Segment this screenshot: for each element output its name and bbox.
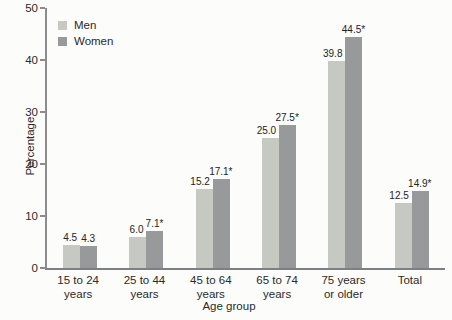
bar-group-2: 15.217.1* bbox=[196, 8, 230, 268]
women-bar-2 bbox=[213, 179, 230, 268]
bar-chart-figure: Percentage 01020304050 4.54.36.07.1*15.2… bbox=[0, 0, 452, 320]
y-tick-mark-50 bbox=[40, 7, 45, 9]
men-value-label-3: 25.0 bbox=[257, 125, 276, 136]
bar-group-1: 6.07.1* bbox=[129, 8, 163, 268]
men-bar-5 bbox=[395, 203, 412, 268]
women-bar-0 bbox=[80, 246, 97, 268]
men-bar-1 bbox=[129, 237, 146, 268]
women-value-label-2: 17.1* bbox=[209, 166, 232, 177]
bar-group-3: 25.027.5* bbox=[262, 8, 296, 268]
x-category-label-0: 15 to 24 years bbox=[45, 273, 111, 303]
legend-row-men: Men bbox=[58, 19, 113, 31]
women-bar-1 bbox=[146, 231, 163, 268]
women-value-label-3: 27.5* bbox=[275, 112, 298, 123]
y-tick-mark-20 bbox=[40, 163, 45, 165]
men-bar-4 bbox=[328, 61, 345, 268]
men-bar-2 bbox=[196, 189, 213, 268]
women-bar-3 bbox=[279, 125, 296, 268]
legend-row-women: Women bbox=[58, 35, 113, 47]
y-tick-label-20: 20 bbox=[6, 157, 38, 171]
bar-group-5: 12.514.9* bbox=[395, 8, 429, 268]
bar-group-4: 39.844.5* bbox=[328, 8, 362, 268]
y-tick-label-10: 10 bbox=[6, 209, 38, 223]
y-tick-label-50: 50 bbox=[6, 1, 38, 15]
x-category-label-1: 25 to 44 years bbox=[111, 273, 177, 303]
women-bar-4 bbox=[345, 37, 362, 268]
y-tick-mark-10 bbox=[40, 215, 45, 217]
men-legend-label: Men bbox=[74, 19, 96, 31]
x-axis-labels: 15 to 24 years25 to 44 years45 to 64 yea… bbox=[45, 273, 443, 303]
men-value-label-5: 12.5 bbox=[389, 190, 408, 201]
women-legend-swatch bbox=[58, 37, 67, 46]
legend: Men Women bbox=[58, 19, 113, 47]
women-value-label-1: 7.1* bbox=[146, 218, 164, 229]
x-category-label-4: 75 years or older bbox=[310, 273, 376, 303]
men-bar-3 bbox=[262, 138, 279, 268]
women-bar-5 bbox=[412, 191, 429, 268]
women-value-label-4: 44.5* bbox=[342, 24, 365, 35]
x-axis-title: Age group bbox=[30, 300, 428, 312]
men-value-label-2: 15.2 bbox=[190, 176, 209, 187]
men-value-label-4: 39.8 bbox=[323, 48, 342, 59]
y-tick-mark-0 bbox=[40, 267, 45, 269]
y-tick-mark-40 bbox=[40, 59, 45, 61]
y-tick-label-40: 40 bbox=[6, 53, 38, 67]
men-value-label-1: 6.0 bbox=[130, 224, 144, 235]
men-bar-0 bbox=[63, 245, 80, 268]
y-tick-mark-30 bbox=[40, 111, 45, 113]
x-category-label-2: 45 to 64 years bbox=[178, 273, 244, 303]
bar-groups: 4.54.36.07.1*15.217.1*25.027.5*39.844.5*… bbox=[47, 8, 445, 268]
x-category-label-3: 65 to 74 years bbox=[244, 273, 310, 303]
women-value-label-0: 4.3 bbox=[81, 233, 95, 244]
bar-group-0: 4.54.3 bbox=[63, 8, 97, 268]
women-value-label-5: 14.9* bbox=[408, 178, 431, 189]
plot-area: Percentage 01020304050 4.54.36.07.1*15.2… bbox=[45, 8, 445, 270]
men-value-label-0: 4.5 bbox=[63, 232, 77, 243]
y-tick-label-30: 30 bbox=[6, 105, 38, 119]
x-category-label-5: Total bbox=[377, 273, 443, 303]
y-tick-label-0: 0 bbox=[6, 261, 38, 275]
women-legend-label: Women bbox=[74, 35, 113, 47]
men-legend-swatch bbox=[58, 21, 67, 30]
